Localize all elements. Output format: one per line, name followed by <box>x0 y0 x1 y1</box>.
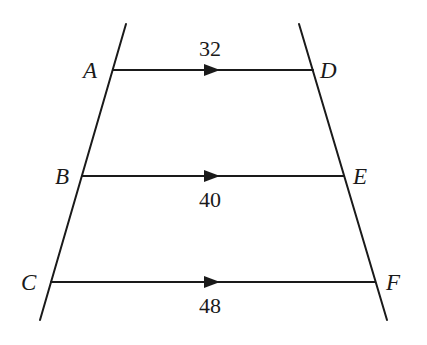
point-label-e: E <box>352 164 367 189</box>
point-label-a: A <box>81 58 98 83</box>
point-label-f: F <box>385 270 401 295</box>
parallel-lines-diagram: A B C D E F 32 40 48 <box>0 0 427 345</box>
point-label-c: C <box>21 270 37 295</box>
right-transversal <box>299 24 387 320</box>
length-label-cf: 48 <box>199 293 221 318</box>
parallel-arrow-icon <box>204 276 220 288</box>
point-label-d: D <box>319 58 337 83</box>
length-label-be: 40 <box>199 187 221 212</box>
parallel-arrow-icon <box>204 64 220 76</box>
parallel-arrow-icon <box>204 170 220 182</box>
length-label-ad: 32 <box>199 36 221 61</box>
point-label-b: B <box>55 164 69 189</box>
